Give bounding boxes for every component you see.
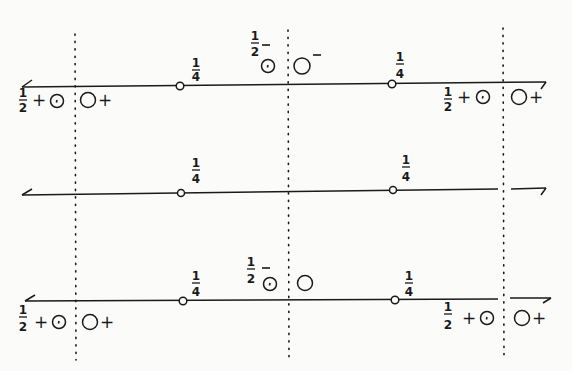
half-num: 1 [247,255,255,269]
number-line-diagram: 1 4 1 4 1 2 + + 1 2 1 2 + + [0,0,572,371]
half-den: 2 [247,272,255,286]
plus-sign: + [34,312,48,332]
quarter-label-den: 4 [396,67,404,81]
open-point [391,296,399,304]
half-num: 1 [444,300,452,314]
quarter-label-den: 4 [192,172,200,186]
number-line-bottom [25,295,551,305]
arrow-left-icon [22,189,32,195]
open-circle-icon [515,311,530,326]
open-circle-icon [83,315,98,330]
open-circle-icon [512,90,527,105]
half-den: 2 [19,101,27,115]
half-num: 1 [251,29,259,43]
middle-labels: 1 4 1 4 [192,153,410,186]
plus-sign: + [529,87,543,107]
open-point [179,297,187,305]
plus-sign: + [32,90,46,110]
quarter-label-num: 1 [405,269,413,283]
dotted-line-left [75,34,76,360]
half-num: 1 [19,303,27,317]
plus-sign: + [100,312,114,332]
bottom-labels: 1 4 1 4 1 2 + + 1 2 1 2 + + [19,255,546,334]
arrow-left-icon [25,295,35,301]
quarter-label-num: 1 [402,153,410,167]
open-circle-icon [298,276,313,291]
quarter-label-num: 1 [192,56,200,70]
plus-sign: + [98,90,112,110]
open-point [176,82,184,90]
plus-sign: + [532,308,546,328]
open-circle-icon [294,58,310,74]
quarter-label-den: 4 [405,285,413,299]
quarter-label-num: 1 [396,50,404,64]
half-den: 2 [251,45,259,59]
open-circle-icon [81,93,96,108]
dotted-line-right [503,28,504,358]
half-den: 2 [444,318,452,332]
plus-sign: + [462,308,476,328]
quarter-label-num: 1 [192,269,200,283]
half-den: 2 [19,320,27,334]
number-line-middle [22,187,546,197]
open-point [388,80,396,88]
vertical-dotted-lines [75,28,504,362]
quarter-label-den: 4 [402,170,410,184]
open-point [390,187,397,194]
dotted-line-middle [288,30,289,362]
open-point [178,190,185,197]
plus-sign: + [457,87,471,107]
quarter-label-den: 4 [192,285,200,299]
half-num: 1 [444,85,452,99]
top-labels: 1 4 1 4 1 2 + + 1 2 1 2 + + [19,29,543,115]
half-num: 1 [19,86,27,100]
quarter-label-den: 4 [192,70,200,84]
quarter-label-num: 1 [192,156,200,170]
arrow-right-icon [541,188,546,195]
half-den: 2 [444,100,452,114]
